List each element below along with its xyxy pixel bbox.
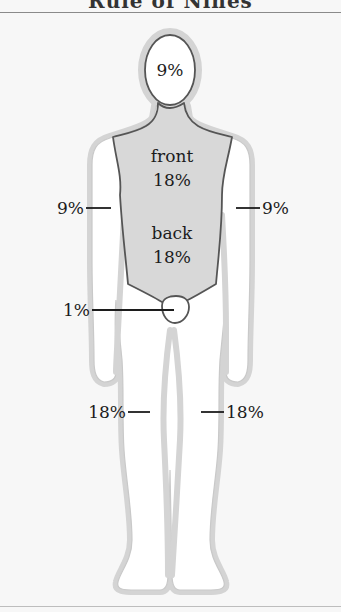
torso-front-label: front — [151, 146, 194, 166]
head-percent-label: 9% — [157, 60, 184, 80]
arm-left-percent-label: 9% — [57, 198, 84, 218]
torso-front-percent-label: 18% — [153, 170, 191, 190]
rule-of-nines-diagram: Rule of Nines — [0, 0, 341, 612]
arm-right-percent-label: 9% — [262, 198, 289, 218]
torso-region — [113, 103, 232, 305]
leg-left-percent-label: 18% — [88, 402, 126, 422]
groin-percent-label: 1% — [63, 300, 90, 320]
leg-right-percent-label: 18% — [226, 402, 264, 422]
body-figure: 9% front 18% back 18% 9% 9% 1% 18% 18% — [0, 0, 341, 612]
torso-back-label: back — [152, 223, 194, 243]
torso-back-percent-label: 18% — [153, 247, 191, 267]
bottom-divider — [0, 606, 341, 607]
